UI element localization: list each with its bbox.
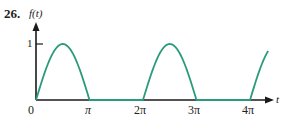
x-axis-label: t (276, 94, 279, 105)
x-tick-label: 2π (134, 104, 146, 116)
x-tick-label: π (85, 104, 91, 116)
x-tick-label: 3π (188, 104, 200, 116)
figure: 26. f(t) 1 t 0 π 2π 3π 4π (0, 0, 284, 117)
function-curve (36, 44, 268, 100)
x-tick-label: 4π (242, 104, 254, 116)
y-axis-arrow-icon (33, 22, 40, 31)
x-axis-arrow-icon (265, 97, 274, 104)
y-tick-label: 1 (27, 38, 33, 49)
x-tick-label: 0 (28, 104, 34, 116)
plot-area (0, 0, 284, 117)
problem-number: 26. (4, 7, 20, 20)
y-axis-label: f(t) (29, 8, 42, 19)
